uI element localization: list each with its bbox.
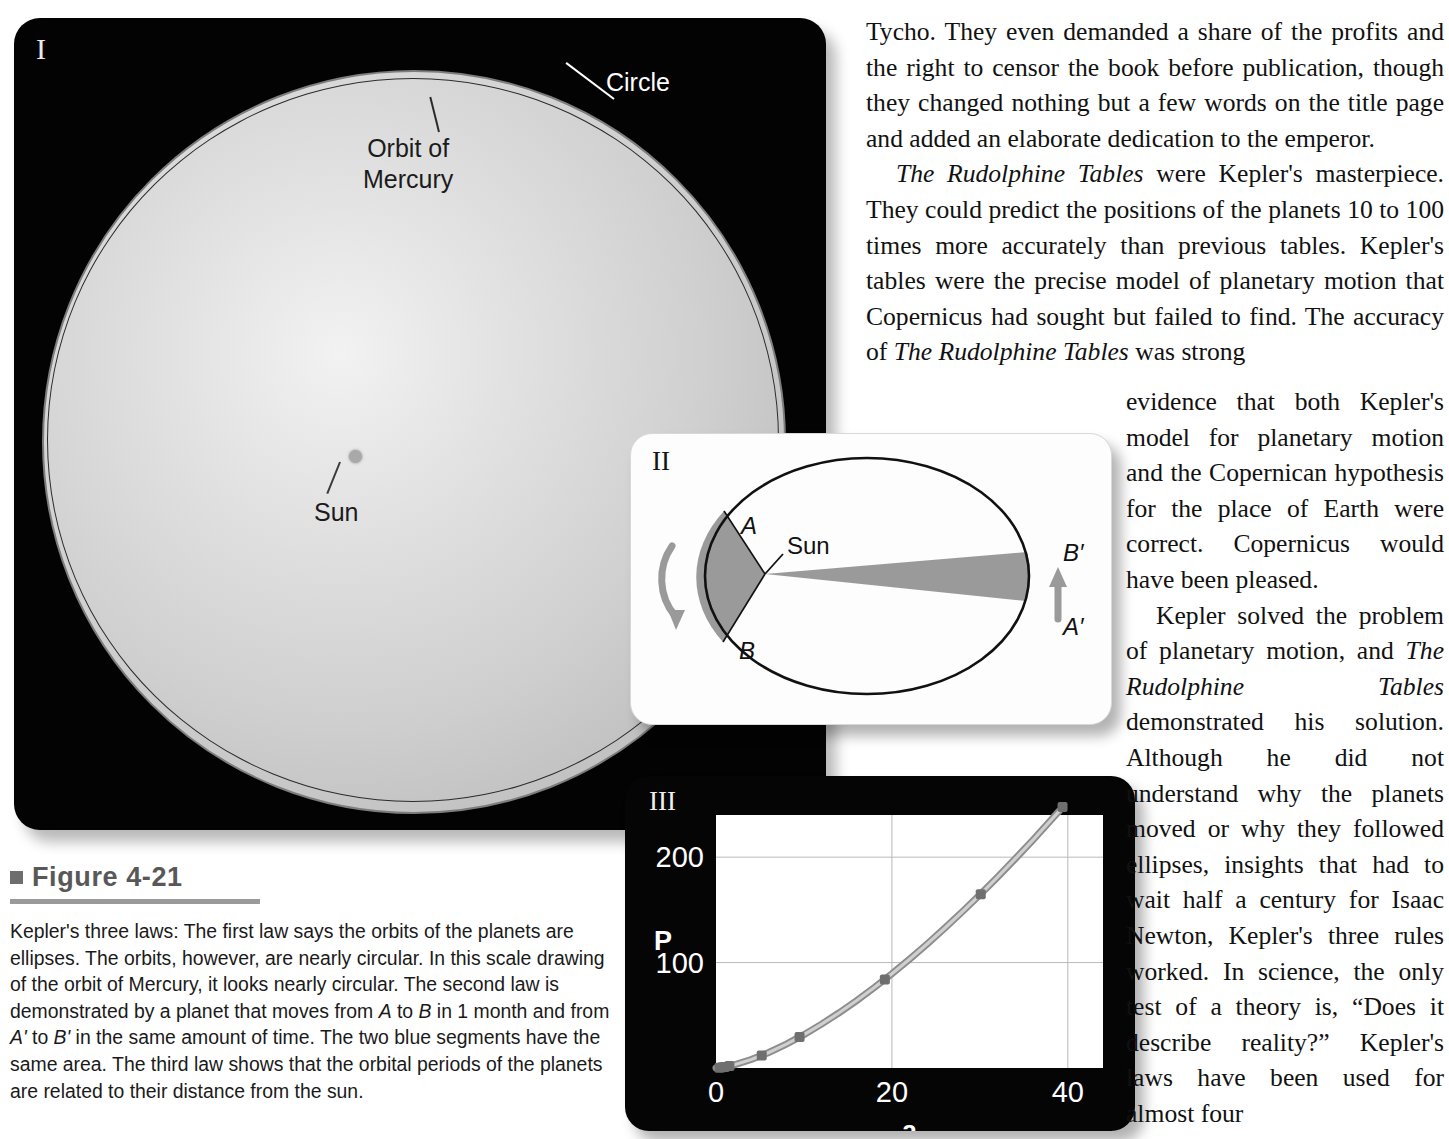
data-point-mars [724, 1061, 734, 1071]
body-column-narrow: evidence that both Kepler's model for pl… [1126, 384, 1444, 1131]
body-column-wide: Tycho. They even demanded a share of the… [866, 14, 1444, 370]
panel-one-numeral: I [36, 32, 47, 66]
sun-label: Sun [787, 532, 830, 559]
label-b-prime: B′ [1063, 539, 1085, 566]
motion-arrow-curve [662, 546, 675, 616]
paragraph: The Rudolphine Tables were Kepler's mast… [866, 156, 1444, 370]
motion-arrow-head [668, 610, 685, 630]
orbit-of-mercury-label: Orbit of Mercury [363, 133, 453, 195]
segment-abprime-shaded-area [765, 552, 1030, 601]
circle-label: Circle [606, 68, 670, 97]
sun-label: Sun [314, 498, 358, 527]
data-point-neptune [976, 889, 986, 899]
data-point-pluto [1058, 802, 1068, 812]
y-axis-label: P [654, 926, 672, 956]
label-a: A [739, 512, 757, 539]
data-point-saturn [795, 1032, 805, 1042]
orbit-label-line2: Mercury [363, 164, 453, 195]
x-tick-label: 40 [1052, 1076, 1084, 1108]
sun-leader-line [765, 554, 783, 574]
orbit-label-line1: Orbit of [363, 133, 453, 164]
sun-marker-icon [349, 450, 362, 463]
motion-arrow-right-head [1049, 567, 1067, 587]
curve-outline [716, 811, 1059, 1068]
label-a-prime: A′ [1061, 613, 1085, 640]
x-tick-label: 20 [876, 1076, 908, 1108]
second-law-ellipse-diagram: A B B′ A′ Sun [631, 434, 1111, 724]
x-axis-label: a [902, 1116, 918, 1131]
label-b: B [739, 637, 755, 664]
figure-caption-text: Kepler's three laws: The first law says … [10, 918, 610, 1104]
square-bullet-icon [10, 871, 23, 884]
third-law-chart: 02040100200aP [625, 776, 1135, 1131]
paragraph: Tycho. They even demanded a share of the… [866, 14, 1444, 156]
y-tick-label: 200 [656, 841, 704, 873]
curve-highlight [716, 811, 1059, 1068]
panel-three-third-law: III 02040100200aP [625, 776, 1135, 1131]
figure-title: Figure 4-21 [32, 862, 183, 893]
x-tick-label: 0 [708, 1076, 724, 1108]
data-point-jupiter [757, 1050, 767, 1060]
paragraph: Kepler solved the problem of planetary m… [1126, 598, 1444, 1132]
paragraph: evidence that both Kepler's model for pl… [1126, 384, 1444, 598]
figure-rule-divider [10, 899, 260, 904]
figure-header: Figure 4-21 [10, 862, 610, 893]
figure-caption-block: Figure 4-21 Kepler's three laws: The fir… [10, 862, 610, 1104]
panel-two-second-law: II A B B′ A′ Sun [630, 433, 1112, 725]
data-point-uranus [880, 974, 890, 984]
